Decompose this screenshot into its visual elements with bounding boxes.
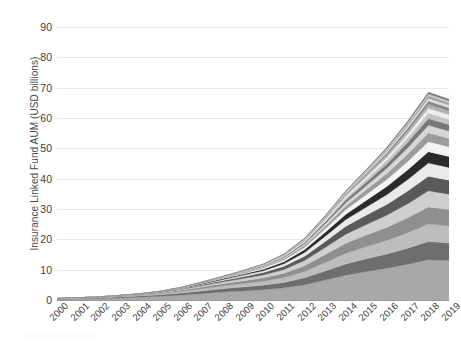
x-tick-2014: 2014 xyxy=(336,300,359,323)
x-tick-2012: 2012 xyxy=(295,300,318,323)
x-tick-2017: 2017 xyxy=(398,300,421,323)
x-tick-2019: 2019 xyxy=(439,300,461,323)
x-tick-2005: 2005 xyxy=(150,300,173,323)
x-tick-2002: 2002 xyxy=(89,300,112,323)
x-tick-2008: 2008 xyxy=(212,300,235,323)
y-tick-80: 80 xyxy=(26,51,52,63)
plot-area xyxy=(57,27,449,300)
y-tick-90: 90 xyxy=(26,21,52,33)
area-series-group xyxy=(57,27,449,300)
y-tick-60: 60 xyxy=(26,112,52,124)
x-tick-2003: 2003 xyxy=(109,300,132,323)
y-tick-50: 50 xyxy=(26,142,52,154)
y-axis-tick-labels: 0102030405060708090 xyxy=(22,0,52,342)
y-tick-40: 40 xyxy=(26,173,52,185)
x-tick-2011: 2011 xyxy=(274,300,296,322)
x-tick-2018: 2018 xyxy=(419,300,442,323)
y-tick-10: 10 xyxy=(26,264,52,276)
x-tick-2010: 2010 xyxy=(254,300,277,323)
y-tick-0: 0 xyxy=(26,294,52,306)
x-tick-2009: 2009 xyxy=(233,300,256,323)
x-tick-2013: 2013 xyxy=(315,300,338,323)
x-axis-tick-labels: 2000200120022003200420052006200720082009… xyxy=(57,300,449,342)
x-tick-2004: 2004 xyxy=(130,300,153,323)
y-tick-20: 20 xyxy=(26,233,52,245)
stacked-area-chart: Insurance Linked Fund AUM (USD billions)… xyxy=(0,0,461,342)
x-tick-2016: 2016 xyxy=(377,300,400,323)
x-tick-2015: 2015 xyxy=(357,300,380,323)
y-tick-30: 30 xyxy=(26,203,52,215)
x-tick-2007: 2007 xyxy=(192,300,215,323)
y-tick-70: 70 xyxy=(26,82,52,94)
x-tick-2001: 2001 xyxy=(68,300,91,323)
x-tick-2006: 2006 xyxy=(171,300,194,323)
legend-swatch-stub xyxy=(24,333,96,338)
